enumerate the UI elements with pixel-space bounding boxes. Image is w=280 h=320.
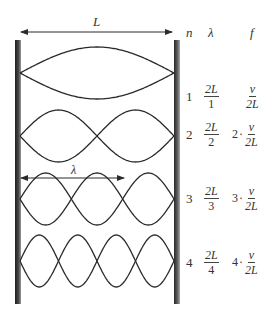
wave-mode-3-upper: [20, 173, 174, 225]
header-lambda: λ: [208, 26, 214, 39]
header-f: f: [250, 26, 254, 39]
row-3-lambda: 2L 3: [204, 185, 219, 212]
row-1-lambda: 2L 1: [204, 83, 219, 110]
row-3-frequency: 3 · v 2L: [232, 185, 258, 212]
right-wall: [174, 40, 180, 304]
left-wall: [15, 40, 21, 304]
length-label: L: [93, 15, 100, 28]
row-3-n: 3: [186, 192, 193, 205]
row-2-lambda: 2L 2: [204, 121, 219, 148]
header-n: n: [186, 26, 193, 39]
row-1-n: 1: [186, 90, 193, 103]
row-2-n: 2: [186, 128, 193, 141]
row-4-frequency: 4 · v 2L: [232, 249, 258, 276]
row-4-n: 4: [186, 256, 193, 269]
wavelength-label: λ: [71, 164, 76, 176]
wave-mode-2-lower: [20, 110, 174, 162]
wave-mode-3-lower: [20, 173, 174, 225]
row-4-lambda: 2L 4: [204, 249, 219, 276]
row-2-frequency: 2 · v 2L: [232, 121, 258, 148]
wave-mode-4-lower: [20, 235, 174, 287]
row-1-frequency: v 2L: [246, 83, 259, 110]
wave-mode-1-upper: [20, 47, 174, 73]
wave-mode-1-lower: [20, 73, 174, 99]
standing-waves: [20, 47, 174, 287]
